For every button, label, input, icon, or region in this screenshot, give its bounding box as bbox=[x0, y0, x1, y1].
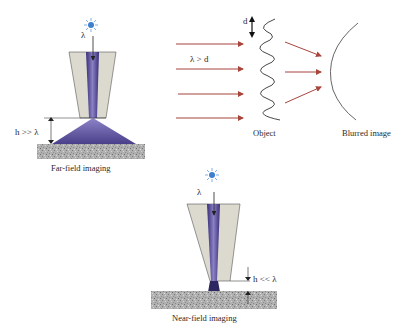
far-field-cone bbox=[52, 118, 136, 144]
blurred-image-arc bbox=[330, 23, 358, 120]
near-field-substrate bbox=[151, 291, 277, 309]
far-field-distance-label: h >> λ bbox=[15, 127, 39, 137]
near-field-wavelength-label: λ bbox=[197, 187, 201, 197]
light-source-icon bbox=[84, 18, 98, 32]
near-field-caption: Near-field imaging bbox=[172, 313, 237, 323]
near-field-diagram bbox=[151, 168, 277, 309]
far-field-wavelength-label: λ bbox=[81, 30, 85, 40]
near-field-aperture bbox=[208, 281, 220, 292]
blurred-image-label: Blurred image bbox=[342, 128, 391, 138]
light-source-icon bbox=[205, 168, 219, 182]
period-label: d bbox=[243, 16, 248, 26]
far-field-caption: Far-field imaging bbox=[51, 163, 111, 173]
object-label: Object bbox=[253, 128, 276, 138]
object-grating bbox=[260, 19, 280, 120]
near-field-distance-label: h << λ bbox=[253, 274, 277, 284]
far-field-diagram bbox=[37, 18, 145, 159]
far-field-substrate bbox=[37, 144, 145, 159]
condition-label: λ > d bbox=[190, 54, 208, 64]
diffraction-diagram bbox=[176, 16, 358, 120]
